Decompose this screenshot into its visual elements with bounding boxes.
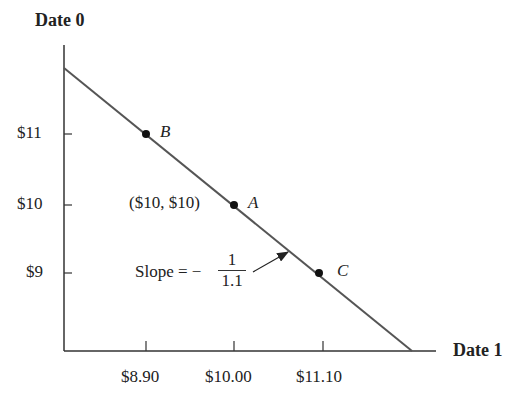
x-tick-label: $8.90 <box>121 367 159 387</box>
y-tick-label: $10 <box>17 194 43 214</box>
point-c-label: C <box>337 261 348 281</box>
y-tick-label: $9 <box>26 262 43 282</box>
chart-canvas <box>0 0 517 398</box>
point-b-marker <box>142 130 150 138</box>
point-c-marker <box>315 269 323 277</box>
slope-numerator: 1 <box>218 250 246 271</box>
slope-arrow-icon <box>253 252 288 272</box>
y-axis-label: Date 0 <box>35 10 84 31</box>
x-tick-label: $10.00 <box>205 367 252 387</box>
slope-denominator: 1.1 <box>218 271 246 291</box>
x-axis-label: Date 1 <box>453 340 502 361</box>
slope-fraction: 1 1.1 <box>218 250 246 291</box>
point-a-coords: ($10, $10) <box>129 193 200 213</box>
point-b-label: B <box>160 122 170 142</box>
y-tick-label: $11 <box>17 123 42 143</box>
budget-line <box>64 68 412 351</box>
point-a-label: A <box>248 193 258 213</box>
x-tick-label: $11.10 <box>296 367 342 387</box>
point-a-marker <box>230 201 238 209</box>
slope-prefix: Slope = − <box>135 262 201 282</box>
